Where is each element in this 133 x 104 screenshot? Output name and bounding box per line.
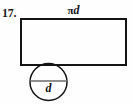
rectangle-shape (21, 19, 126, 65)
circle-diameter-label: d (30, 81, 67, 95)
geometry-figure: 17. πd d (0, 0, 133, 104)
